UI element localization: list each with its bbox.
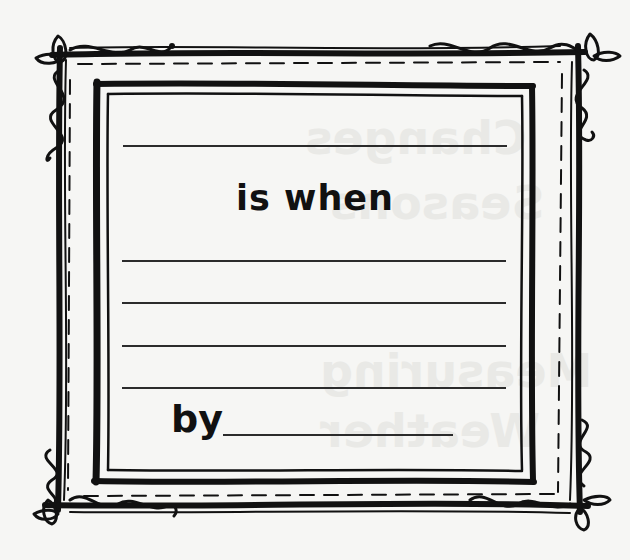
answer-line-1[interactable] bbox=[122, 260, 506, 262]
worksheet-page: Changes Seasons Measuring Weather bbox=[0, 0, 630, 560]
answer-line-top[interactable] bbox=[123, 145, 507, 147]
answer-line-3[interactable] bbox=[122, 345, 506, 347]
answer-line-4[interactable] bbox=[122, 387, 506, 389]
decorative-frame bbox=[0, 0, 630, 560]
answer-line-2[interactable] bbox=[122, 302, 506, 304]
prompt-connector: is when bbox=[0, 178, 630, 218]
author-label: by bbox=[171, 397, 223, 441]
author-name-line[interactable] bbox=[223, 434, 453, 436]
